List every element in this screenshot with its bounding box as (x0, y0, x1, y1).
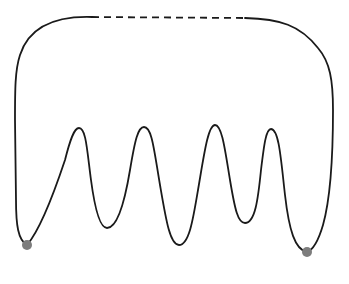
dashed-top-segment (92, 17, 245, 18)
right-minimum-dot (302, 247, 312, 257)
well-landscape-line (27, 125, 307, 252)
energy-landscape-diagram (0, 0, 349, 284)
left-minimum-dot (22, 240, 32, 250)
left-arc-line (15, 17, 92, 245)
